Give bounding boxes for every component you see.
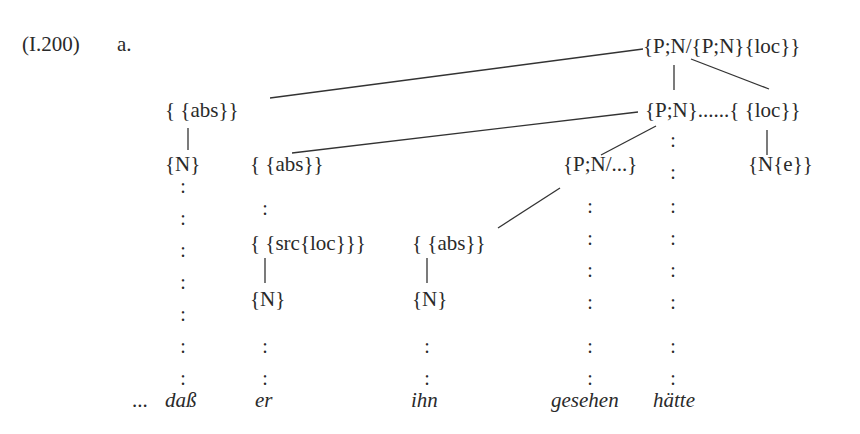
colon-haette: : [668, 162, 678, 182]
colon-dass: : [178, 336, 188, 356]
colon-gesehen: : [585, 260, 595, 280]
node-n-ihn: {N} [412, 287, 447, 311]
word-ihn: ihn [411, 388, 438, 412]
edge-pn-pnslash [601, 126, 656, 155]
node-n-left: {N} [165, 152, 200, 176]
colon-haette: : [668, 260, 678, 280]
colon-ihn: : [422, 368, 432, 388]
colon-dass: : [178, 368, 188, 388]
colon-dass: : [178, 208, 188, 228]
edge-pnslash-absihn [498, 188, 560, 228]
word-dass: daß [165, 388, 197, 412]
node-src-loc: { {src{loc}}} [250, 231, 366, 255]
node-n-e: {N{e}} [748, 152, 813, 176]
colon-haette: : [668, 196, 678, 216]
node-abs-mid: { {abs}} [250, 152, 324, 176]
colon-haette: : [668, 228, 678, 248]
edge-pn-absmid [292, 112, 638, 153]
colon-er: : [260, 336, 270, 356]
edge-root-loc [691, 59, 769, 89]
colon-er: : [260, 198, 270, 218]
node-pn-label: {P;N} [645, 98, 698, 122]
colon-gesehen: : [585, 368, 595, 388]
node-pn: {P;N}......{ {loc}} [645, 98, 801, 122]
colon-gesehen: : [585, 196, 595, 216]
node-abs-top: { {abs}} [165, 98, 239, 122]
colon-haette: : [668, 368, 678, 388]
node-abs-ihn: { {abs}} [412, 231, 486, 255]
colon-haette: : [668, 336, 678, 356]
node-n-er: {N} [250, 287, 285, 311]
example-sublabel: a. [117, 32, 132, 56]
association-dots: ...... [698, 98, 730, 122]
word-haette: hätte [653, 388, 695, 412]
word-ellipsis: ... [132, 388, 148, 412]
colon-er: : [260, 368, 270, 388]
colon-gesehen: : [585, 228, 595, 248]
colon-dass: : [178, 304, 188, 324]
node-pn-slash: {P;N/...} [563, 152, 637, 176]
node-root: {P;N/{P;N}{loc}} [643, 34, 800, 58]
colon-gesehen: : [585, 292, 595, 312]
colon-dass: : [178, 176, 188, 196]
word-gesehen: gesehen [551, 388, 619, 412]
word-er: er [255, 388, 273, 412]
colon-dass: : [178, 272, 188, 292]
colon-ihn: : [422, 336, 432, 356]
colon-haette: : [668, 292, 678, 312]
edge-root-abs [270, 49, 643, 98]
colon-dass: : [178, 240, 188, 260]
example-number: (I.200) [22, 32, 80, 56]
colon-gesehen: : [585, 336, 595, 356]
colon-haette: : [668, 130, 678, 150]
node-loc: { {loc}} [729, 98, 800, 122]
